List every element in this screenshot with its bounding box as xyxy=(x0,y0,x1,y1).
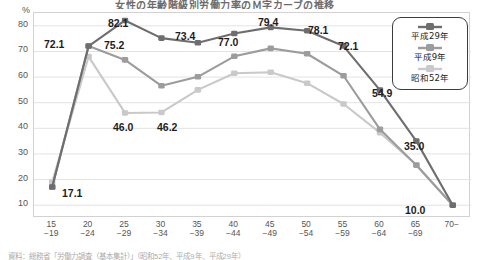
y-tick-label: 80 xyxy=(0,19,28,29)
legend[interactable]: 平成29年 平成9年 昭和52年 xyxy=(392,17,468,90)
series-marker xyxy=(158,110,164,116)
x-tick-bottom: −29 xyxy=(117,228,131,238)
series-marker xyxy=(122,57,128,63)
series-marker xyxy=(340,101,346,107)
data-value-label: 72.1 xyxy=(338,40,358,52)
y-tick-label: 50 xyxy=(0,96,28,106)
series-marker xyxy=(158,83,164,89)
series-marker xyxy=(231,70,237,76)
legend-label-0: 平成29年 xyxy=(393,31,467,42)
x-tick-label: 35−39 xyxy=(177,220,217,238)
y-tick-label: 10 xyxy=(0,198,28,208)
x-tick-label: 25−29 xyxy=(104,220,144,238)
data-value-label: 79.4 xyxy=(258,16,278,28)
series-marker xyxy=(450,202,456,208)
page-title: 女性の年齢階級別労働力率のＭ字カーブの推移 xyxy=(60,0,390,9)
series-marker xyxy=(413,162,419,168)
x-tick-bottom: −34 xyxy=(153,228,167,238)
x-tick-bottom: −69 xyxy=(408,228,422,238)
x-tick-bottom: −24 xyxy=(80,228,94,238)
legend-item-0[interactable]: 平成29年 xyxy=(393,22,467,42)
x-tick-bottom: −44 xyxy=(226,228,240,238)
data-value-label: 75.2 xyxy=(104,39,124,51)
series-marker xyxy=(231,54,237,60)
data-value-label: 82.1 xyxy=(108,17,128,29)
x-tick-label: 15−19 xyxy=(31,220,71,238)
data-value-label: 17.1 xyxy=(62,187,82,199)
series-marker xyxy=(377,127,383,133)
x-tick-label: 40−44 xyxy=(213,220,253,238)
x-tick-bottom: −39 xyxy=(190,228,204,238)
legend-label-2: 昭和52年 xyxy=(393,73,467,84)
data-value-label: 54.9 xyxy=(372,87,392,99)
y-tick-label: 20 xyxy=(0,173,28,183)
legend-marker-icon-0 xyxy=(417,22,443,31)
series-marker xyxy=(85,43,91,49)
y-tick-label: 60 xyxy=(0,70,28,80)
series-marker xyxy=(268,46,274,52)
x-tick-top: 70− xyxy=(445,219,459,229)
series-marker xyxy=(304,80,310,86)
x-tick-label: 30−34 xyxy=(140,220,180,238)
legend-item-2[interactable]: 昭和52年 xyxy=(393,64,467,84)
legend-marker-icon-1 xyxy=(417,43,443,52)
x-tick-bottom: −59 xyxy=(335,228,349,238)
x-tick-label: 70− xyxy=(432,220,472,229)
series-marker xyxy=(304,51,310,57)
series-marker xyxy=(158,35,164,41)
x-tick-bottom: −49 xyxy=(262,228,276,238)
data-value-label: 73.4 xyxy=(175,30,195,42)
series-marker xyxy=(49,184,55,190)
legend-label-1: 平成9年 xyxy=(393,52,467,63)
x-tick-label: 20−24 xyxy=(68,220,108,238)
series-marker xyxy=(340,73,346,79)
x-tick-label: 50−54 xyxy=(286,220,326,238)
data-value-label: 78.1 xyxy=(308,24,328,36)
x-tick-bottom: −19 xyxy=(44,228,58,238)
x-tick-label: 45−49 xyxy=(250,220,290,238)
series-marker xyxy=(122,110,128,116)
legend-item-1[interactable]: 平成9年 xyxy=(393,43,467,63)
data-value-label: 46.2 xyxy=(157,121,177,133)
data-value-label: 46.0 xyxy=(113,121,133,133)
x-tick-bottom: −64 xyxy=(372,228,386,238)
legend-marker-icon-2 xyxy=(417,64,443,73)
series-marker xyxy=(195,40,201,46)
footnote: 資料：総務省「労働力調査（基本集計）」（昭和52年、平成9年、平成29年） xyxy=(8,250,472,260)
series-marker xyxy=(268,69,274,75)
series-marker xyxy=(195,74,201,80)
x-tick-label: 55−59 xyxy=(323,220,363,238)
y-tick-label: 40 xyxy=(0,121,28,131)
y-axis-unit: % xyxy=(22,5,30,15)
y-tick-label: 30 xyxy=(0,147,28,157)
data-value-label: 10.0 xyxy=(405,204,425,216)
series-marker xyxy=(195,87,201,93)
data-value-label: 72.1 xyxy=(44,38,64,50)
x-tick-bottom: −54 xyxy=(299,228,313,238)
data-value-label: 77.0 xyxy=(218,36,238,48)
data-value-label: 35.0 xyxy=(404,140,424,152)
y-tick-label: 70 xyxy=(0,44,28,54)
x-tick-label: 60−64 xyxy=(359,220,399,238)
x-tick-label: 65−69 xyxy=(395,220,435,238)
